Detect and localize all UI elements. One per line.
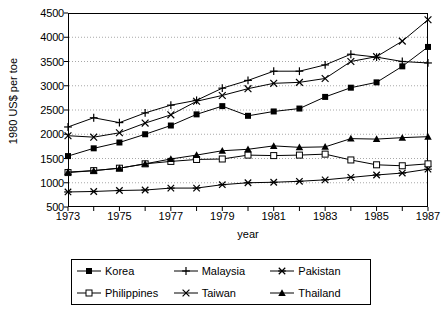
x-tick-label: 1977 xyxy=(159,210,183,222)
x-tick-label: 1975 xyxy=(107,210,131,222)
legend-item-philippines[interactable]: Philippines xyxy=(76,287,173,299)
asterisk-icon xyxy=(269,265,295,277)
data-series-group xyxy=(64,16,432,195)
plus-icon xyxy=(173,265,199,277)
x-tick-label: 1979 xyxy=(210,210,234,222)
legend-label: Pakistan xyxy=(298,266,340,277)
open-square-icon xyxy=(76,287,102,299)
chart-figure: 50010001500200025003000350040004500 1980… xyxy=(0,0,442,320)
cross-icon xyxy=(173,287,199,299)
legend-label: Philippines xyxy=(105,288,158,299)
series-philippines xyxy=(65,151,431,175)
x-axis-title: year xyxy=(68,228,428,240)
filled-triangle-icon xyxy=(269,287,295,299)
legend-item-korea[interactable]: Korea xyxy=(76,265,173,277)
legend-item-taiwan[interactable]: Taiwan xyxy=(173,287,270,299)
legend-item-thailand[interactable]: Thailand xyxy=(269,287,366,299)
legend-label: Malaysia xyxy=(202,266,245,277)
x-tick-label: 1981 xyxy=(261,210,285,222)
x-tick-label: 1987 xyxy=(416,210,440,222)
legend-label: Thailand xyxy=(298,288,340,299)
x-tick-label: 1985 xyxy=(364,210,388,222)
legend-label: Taiwan xyxy=(202,288,236,299)
legend-label: Korea xyxy=(105,266,134,277)
chart-legend: KoreaMalaysiaPakistanPhilippinesTaiwanTh… xyxy=(71,259,371,305)
x-tick-label: 1973 xyxy=(56,210,80,222)
legend-item-pakistan[interactable]: Pakistan xyxy=(269,265,366,277)
filled-square-icon xyxy=(76,265,102,277)
x-tick-label: 1983 xyxy=(313,210,337,222)
legend-item-malaysia[interactable]: Malaysia xyxy=(173,265,270,277)
